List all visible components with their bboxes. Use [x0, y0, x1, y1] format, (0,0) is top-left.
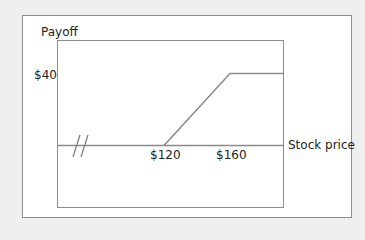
y-tick-label-40: $40	[34, 69, 57, 81]
plot-area-box	[58, 41, 284, 208]
payoff-line	[164, 74, 284, 146]
x-tick-label-120: $120	[150, 149, 181, 161]
y-axis-label: Payoff	[41, 26, 78, 38]
x-tick-label-160: $160	[216, 149, 247, 161]
x-axis-label: Stock price	[288, 139, 355, 151]
